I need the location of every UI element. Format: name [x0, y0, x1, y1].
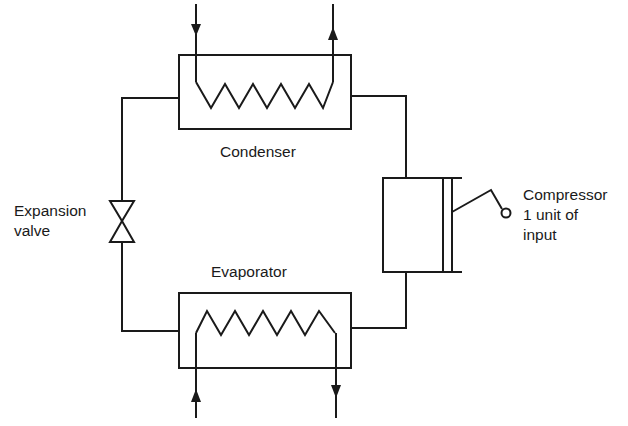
- evaporator-coil: [196, 311, 335, 335]
- compressor-icon: [383, 178, 511, 272]
- condenser-box: [179, 55, 351, 129]
- expansion-valve-label-line1: Expansion: [14, 201, 86, 220]
- condenser-coil: [196, 82, 333, 108]
- refrigerant-piping: [122, 96, 406, 331]
- compressor-label-line3: input: [523, 225, 557, 244]
- condenser: [179, 4, 351, 129]
- compressor-label-line2: 1 unit of: [523, 205, 578, 224]
- expansion-valve-label-line2: valve: [14, 221, 50, 240]
- evaporator-inlet-icon: [191, 389, 201, 402]
- compressor-cylinder: [383, 178, 443, 272]
- evaporator-box: [179, 293, 351, 368]
- evaporator-label: Evaporator: [211, 262, 287, 281]
- compressor-label-line1: Compressor: [523, 185, 607, 204]
- input-shaft-icon: [502, 209, 511, 218]
- compressor-crank: [452, 190, 502, 212]
- expansion-valve-icon: [110, 201, 134, 242]
- evaporator: [179, 293, 351, 418]
- condenser-label: Condenser: [220, 142, 296, 161]
- evaporator-outlet-icon: [331, 385, 341, 398]
